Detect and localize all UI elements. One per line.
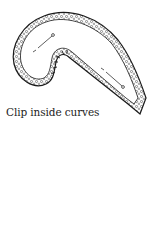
diagram-caption: Clip inside curves [6,106,99,118]
